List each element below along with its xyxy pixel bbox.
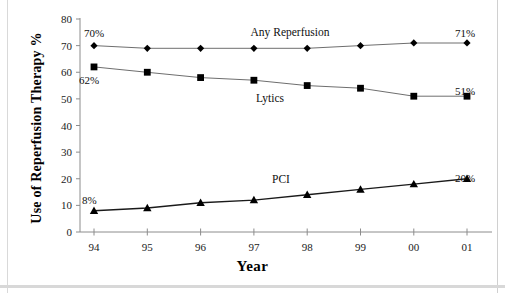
x-axis-tick-label: 00 xyxy=(408,241,419,253)
y-axis-title: Use of Reperfusion Therapy % xyxy=(29,18,45,238)
series-marker-diamond xyxy=(250,45,257,52)
series-marker-square xyxy=(304,82,311,89)
x-axis-tick-label: 01 xyxy=(462,241,473,253)
series-marker-diamond xyxy=(144,45,151,52)
y-axis-tick-label: 20 xyxy=(44,173,72,185)
y-axis-tick-label: 0 xyxy=(44,226,72,238)
series-label-lytics: Lytics xyxy=(256,92,284,104)
series-marker-square xyxy=(410,93,417,100)
endpoint-label-pci-start: 8% xyxy=(82,194,97,206)
endpoint-label-lytics-start: 62% xyxy=(79,74,99,86)
series-marker-square xyxy=(251,77,258,84)
series-marker-diamond xyxy=(197,45,204,52)
series-marker-diamond xyxy=(357,42,364,49)
x-axis-tick-label: 96 xyxy=(195,241,206,253)
y-axis-tick-label: 70 xyxy=(44,40,72,52)
endpoint-label-any-reperfusion-start: 70% xyxy=(84,27,104,39)
x-axis-title: Year xyxy=(0,258,505,275)
series-label-any-reperfusion: Any Reperfusion xyxy=(251,26,330,38)
endpoint-label-any-reperfusion-end: 71% xyxy=(455,27,475,39)
x-axis-tick-label: 98 xyxy=(302,241,313,253)
x-axis-tick-label: 95 xyxy=(142,241,153,253)
series-marker-square xyxy=(91,64,98,71)
series-marker-diamond xyxy=(90,42,97,49)
y-axis-tick-label: 10 xyxy=(44,199,72,211)
y-axis-tick-label: 50 xyxy=(44,93,72,105)
series-marker-diamond xyxy=(463,39,470,46)
chart-figure: Use of Reperfusion Therapy % Year 010203… xyxy=(0,0,505,293)
endpoint-label-pci-end: 20% xyxy=(455,172,475,184)
y-axis-tick-label: 40 xyxy=(44,120,72,132)
x-axis-tick-label: 97 xyxy=(248,241,259,253)
series-marker-square xyxy=(197,74,204,81)
series-label-pci: PCI xyxy=(272,173,290,185)
series-marker-diamond xyxy=(304,45,311,52)
x-axis-tick-label: 99 xyxy=(355,241,366,253)
endpoint-label-lytics-end: 51% xyxy=(455,85,475,97)
series-marker-square xyxy=(144,69,151,76)
x-axis-tick-label: 94 xyxy=(89,241,100,253)
y-axis-tick-label: 30 xyxy=(44,146,72,158)
y-axis-tick-label: 60 xyxy=(44,66,72,78)
series-marker-square xyxy=(357,85,364,92)
y-axis-tick-label: 80 xyxy=(44,13,72,25)
series-marker-diamond xyxy=(410,39,417,46)
